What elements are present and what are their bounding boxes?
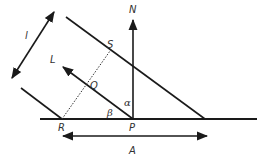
- label-a: A: [128, 145, 136, 156]
- label-l-direction: L: [50, 54, 56, 65]
- label-r: R: [58, 122, 65, 133]
- diagram-canvas: N S L Q l R P A α β: [0, 0, 266, 162]
- label-q: Q: [90, 80, 98, 91]
- width-arrow-l: [12, 12, 54, 78]
- label-p: P: [129, 122, 136, 133]
- upper-incline-line: [66, 17, 205, 119]
- label-n: N: [129, 4, 137, 15]
- label-alpha: α: [124, 97, 131, 108]
- label-beta: β: [106, 107, 113, 118]
- label-s: S: [107, 39, 114, 50]
- lower-incline-line: [21, 88, 62, 119]
- label-width-l: l: [25, 30, 28, 41]
- direction-arrow-l: [63, 67, 133, 119]
